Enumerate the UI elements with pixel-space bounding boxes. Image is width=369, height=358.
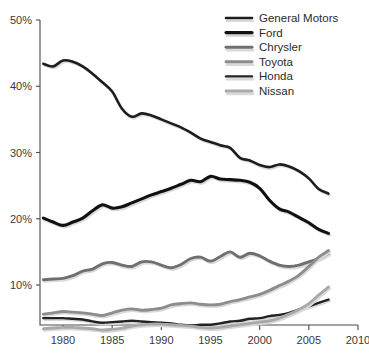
legend-item-nissan[interactable]: Nissan <box>226 85 294 97</box>
line-chart: 10%20%30%40%50% 198019851990199520002005… <box>0 0 369 358</box>
legend-label-nissan: Nissan <box>259 85 294 97</box>
y-axis-tick-label: 40% <box>10 80 32 92</box>
x-axis-tick-label: 1990 <box>149 334 173 346</box>
legend-label-ford: Ford <box>259 27 283 39</box>
axis-lines <box>40 20 358 325</box>
x-axis-tick-label: 1995 <box>198 334 222 346</box>
legend-item-toyota[interactable]: Toyota <box>226 56 293 68</box>
legend-item-ford[interactable]: Ford <box>226 27 283 39</box>
legend-label-toyota: Toyota <box>259 56 293 68</box>
x-axis-tick-label: 2005 <box>297 334 321 346</box>
chart-series-group <box>43 60 329 332</box>
legend-label-honda: Honda <box>259 70 293 82</box>
legend-item-chrysler[interactable]: Chrysler <box>226 41 302 53</box>
x-axis-tick-label: 1985 <box>100 334 124 346</box>
legend-label-chrysler: Chrysler <box>259 41 302 53</box>
y-axis-tick-label: 30% <box>10 147 32 159</box>
chart-legend: General MotorsFordChryslerToyotaHondaNis… <box>226 12 339 97</box>
y-axis-tick-label: 10% <box>10 279 32 291</box>
legend-item-general-motors[interactable]: General Motors <box>226 12 339 24</box>
y-axis-tick-label: 20% <box>10 213 32 225</box>
y-axis-tick-label: 50% <box>10 14 32 26</box>
series-line-nissan <box>43 287 328 330</box>
legend-item-honda[interactable]: Honda <box>226 70 293 82</box>
x-axis-tick-label: 1980 <box>51 334 75 346</box>
series-line-shadow-ford <box>45 178 330 235</box>
chart-container: 10%20%30%40%50% 198019851990199520002005… <box>0 0 369 358</box>
x-axis-tick-label: 2000 <box>247 334 271 346</box>
y-axis-tick-labels: 10%20%30%40%50% <box>10 14 32 291</box>
legend-label-general-motors: General Motors <box>259 12 339 24</box>
x-axis-tick-labels: 1980198519901995200020052010 <box>51 334 369 346</box>
series-line-chrysler <box>43 252 328 280</box>
x-axis-tick-label: 2010 <box>346 334 369 346</box>
